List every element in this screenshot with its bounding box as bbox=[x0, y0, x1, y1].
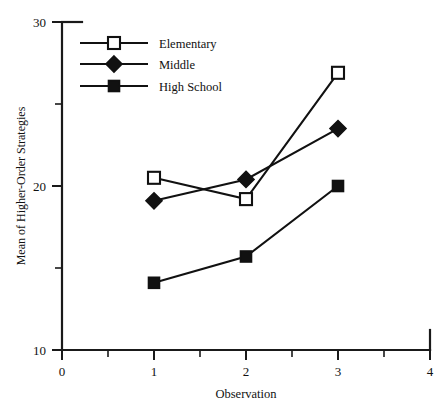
x-tick-label-2: 2 bbox=[243, 364, 250, 379]
legend-label-elementary: Elementary bbox=[159, 37, 217, 51]
x-tick-label-3: 3 bbox=[335, 364, 342, 379]
y-axis-tick-labels: 30 20 10 bbox=[33, 15, 46, 358]
data-point-middle-3 bbox=[330, 121, 346, 137]
data-point-middle-1 bbox=[146, 193, 162, 209]
legend-entry-elementary[interactable]: Elementary bbox=[80, 37, 217, 51]
data-point-middle-2 bbox=[238, 171, 254, 187]
y-tick-label-10: 10 bbox=[33, 343, 46, 358]
legend-label-high-school: High School bbox=[159, 80, 222, 94]
legend: Elementary Middle High School bbox=[80, 37, 222, 94]
x-tick-label-4: 4 bbox=[427, 364, 434, 379]
x-axis-ticks bbox=[62, 350, 430, 360]
data-point-elementary-1 bbox=[148, 172, 160, 184]
legend-entry-middle[interactable]: Middle bbox=[80, 56, 196, 72]
data-point-elementary-3 bbox=[332, 67, 344, 79]
x-tick-label-1: 1 bbox=[151, 364, 158, 379]
x-tick-label-0: 0 bbox=[59, 364, 66, 379]
series-middle-line bbox=[154, 129, 338, 201]
x-axis-title: Observation bbox=[215, 387, 277, 401]
legend-entry-high-school[interactable]: High School bbox=[80, 80, 222, 94]
legend-marker-filled-diamond bbox=[106, 56, 122, 72]
x-axis-tick-labels: 0 1 2 3 4 bbox=[59, 364, 434, 379]
legend-label-middle: Middle bbox=[159, 58, 196, 72]
legend-marker-filled-square bbox=[109, 81, 120, 92]
y-axis-title: Mean of Higher-Order Strategies bbox=[14, 106, 28, 265]
data-point-elementary-2 bbox=[240, 193, 252, 205]
legend-marker-open-square bbox=[108, 37, 120, 49]
chart-container: 30 20 10 0 1 2 3 4 Observation Mean of H… bbox=[0, 0, 445, 406]
y-axis-ticks bbox=[52, 22, 62, 350]
data-point-high-school-3 bbox=[333, 181, 344, 192]
line-chart-plot: 30 20 10 0 1 2 3 4 Observation Mean of H… bbox=[0, 0, 445, 406]
data-point-high-school-2 bbox=[241, 251, 252, 262]
y-tick-label-30: 30 bbox=[33, 15, 46, 30]
y-tick-label-20: 20 bbox=[33, 179, 46, 194]
data-point-high-school-1 bbox=[149, 277, 160, 288]
